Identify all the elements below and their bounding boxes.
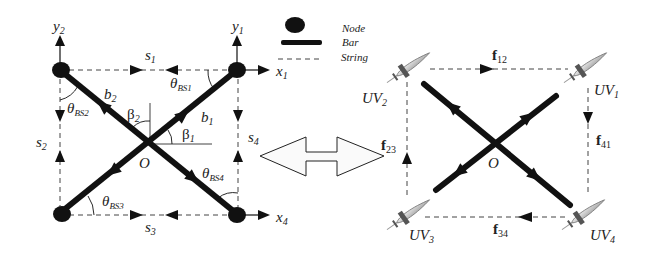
label-theta-bs2: θBS2 bbox=[67, 100, 89, 118]
s2-arrow-down-icon bbox=[55, 110, 65, 122]
tensegrity-formation-figure: Node Bar String bbox=[0, 0, 654, 255]
double-arrow-icon bbox=[260, 137, 384, 176]
label-uv1: UV1 bbox=[594, 82, 619, 100]
label-f23: f23 bbox=[381, 137, 396, 155]
axis-y1-arrow-icon bbox=[232, 35, 242, 46]
axis-y2-arrow-icon bbox=[55, 35, 65, 46]
label-f34: f34 bbox=[493, 221, 508, 239]
legend-bar-icon bbox=[281, 40, 322, 45]
s4-arrow-up-icon bbox=[233, 150, 243, 162]
arc-beta1 bbox=[168, 130, 172, 144]
axis-x4-arrow-icon bbox=[258, 210, 270, 220]
label-center-o: O bbox=[139, 155, 150, 171]
label-center-o-right: O bbox=[488, 155, 499, 171]
f12-arrow-right-icon bbox=[480, 64, 494, 74]
label-uv3: UV3 bbox=[409, 227, 434, 245]
label-uv2: UV2 bbox=[362, 90, 387, 108]
label-theta-bs4: θBS4 bbox=[202, 165, 224, 183]
label-uv4: UV4 bbox=[590, 227, 615, 245]
f41-arrow-down-icon bbox=[583, 112, 593, 124]
label-beta1: β1 bbox=[182, 126, 195, 144]
label-b1: b1 bbox=[201, 109, 214, 127]
arc-theta-bs3 bbox=[88, 196, 94, 215]
label-beta2: β2 bbox=[127, 106, 140, 124]
s1-arrow-left-icon bbox=[165, 65, 178, 75]
right-diagram: UV2 UV1 UV3 UV4 f12 f23 f34 f41 O bbox=[362, 47, 619, 245]
node-2 bbox=[52, 62, 70, 78]
label-f12: f12 bbox=[492, 47, 507, 65]
legend-node-label: Node bbox=[341, 22, 365, 34]
label-s3: s3 bbox=[145, 219, 156, 237]
label-y2: y2 bbox=[51, 18, 65, 36]
label-s2: s2 bbox=[36, 134, 47, 152]
node-3 bbox=[53, 206, 71, 222]
label-theta-bs3: θBS3 bbox=[102, 193, 124, 211]
s3-arrow-right-icon bbox=[130, 210, 143, 220]
label-f41: f41 bbox=[596, 132, 611, 150]
label-y1: y1 bbox=[230, 18, 244, 36]
legend-string-label: String bbox=[341, 51, 368, 63]
legend-node-icon bbox=[285, 17, 305, 33]
legend-bar-label: Bar bbox=[342, 36, 359, 48]
legend: Node Bar String bbox=[278, 17, 368, 63]
label-x1: x1 bbox=[275, 63, 288, 81]
label-theta-bs1: θBS1 bbox=[170, 75, 192, 93]
s4-arrow-down-icon bbox=[233, 110, 243, 122]
label-b2: b2 bbox=[104, 86, 117, 104]
s3-arrow-left-icon bbox=[165, 210, 178, 220]
label-s4: s4 bbox=[248, 129, 259, 147]
label-s1: s1 bbox=[145, 47, 156, 65]
node-4 bbox=[228, 207, 246, 223]
label-x4: x4 bbox=[275, 209, 288, 227]
left-diagram: y2 y1 x1 x4 s1 s2 s3 s4 b2 b1 O β2 β1 θB… bbox=[36, 18, 288, 237]
f34-arrow-left-icon bbox=[518, 212, 532, 222]
axis-x1-arrow-icon bbox=[258, 65, 270, 75]
arc-theta-bs2 bbox=[60, 86, 78, 100]
node-1 bbox=[228, 62, 246, 78]
f23-arrow-up-icon bbox=[402, 152, 412, 164]
s1-arrow-right-icon bbox=[130, 65, 143, 75]
s2-arrow-up-icon bbox=[55, 150, 65, 162]
